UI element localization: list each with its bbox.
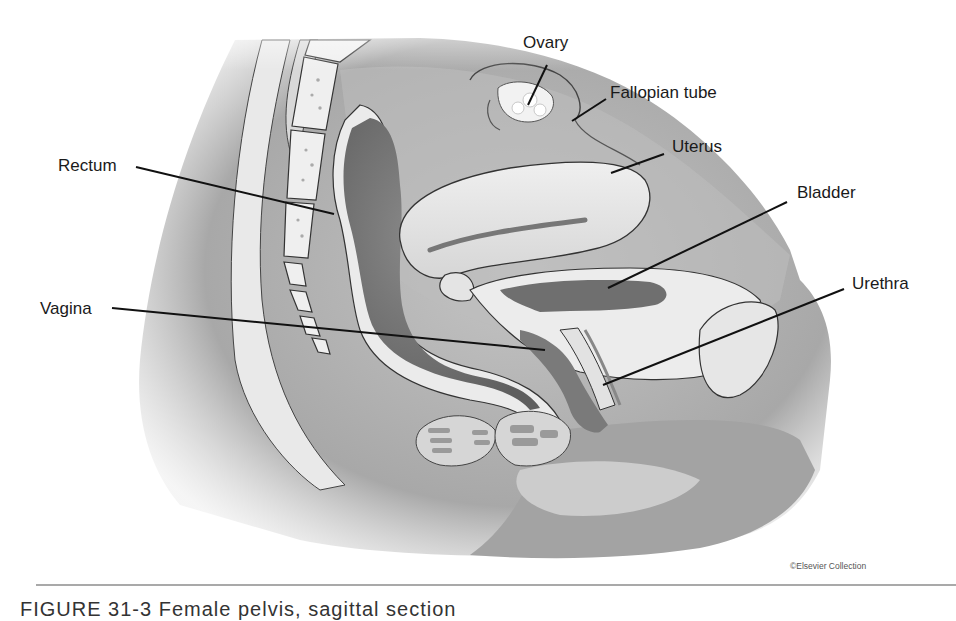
label-bladder: Bladder	[797, 184, 856, 201]
label-ovary: Ovary	[523, 34, 568, 51]
figure-caption: FIGURE 31-3 Female pelvis, sagittal sect…	[20, 598, 457, 621]
copyright-notice: ©Elsevier Collection	[790, 561, 866, 571]
caption-divider	[36, 584, 956, 586]
label-vagina: Vagina	[40, 300, 92, 317]
label-uterus: Uterus	[672, 138, 722, 155]
label-urethra: Urethra	[852, 275, 909, 292]
label-fallopian-tube: Fallopian tube	[610, 84, 717, 101]
label-rectum: Rectum	[58, 157, 117, 174]
